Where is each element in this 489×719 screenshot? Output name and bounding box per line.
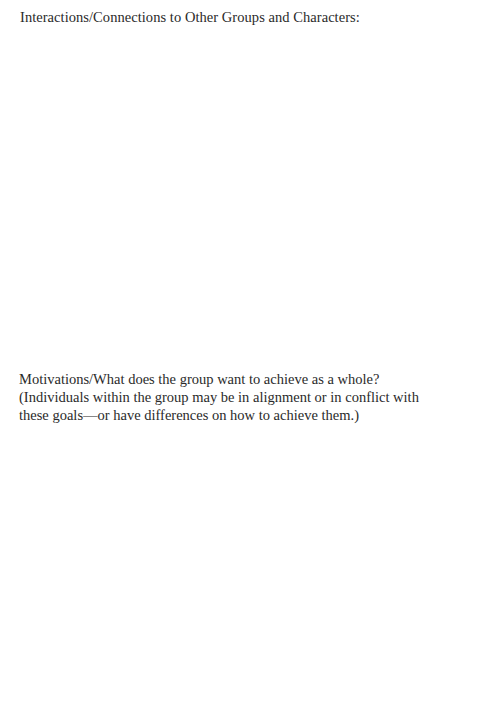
worksheet-page: Interactions/Connections to Other Groups… [0,0,489,719]
motivations-prompt: Motivations/What does the group want to … [19,370,484,424]
motivations-prompt-line-3: these goals—or have differences on how t… [19,406,484,424]
motivations-answer-area [20,430,470,710]
motivations-prompt-line-1: Motivations/What does the group want to … [19,370,484,388]
motivations-prompt-line-2: (Individuals within the group may be in … [19,388,484,406]
interactions-heading: Interactions/Connections to Other Groups… [20,8,360,26]
interactions-answer-area [20,32,470,362]
